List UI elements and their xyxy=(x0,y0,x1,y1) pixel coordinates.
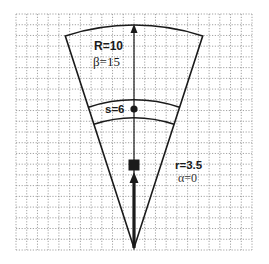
label-s: s=6 xyxy=(105,103,125,115)
thick-arrowhead-icon xyxy=(130,172,139,183)
sector-diagram: R=10 β=15 s=6 r=3.5 α=0 xyxy=(0,0,269,264)
label-beta: β=15 xyxy=(93,54,120,69)
s-dot-marker xyxy=(130,105,137,112)
r-square-marker xyxy=(129,160,140,171)
label-R: R=10 xyxy=(94,39,123,53)
label-alpha: α=0 xyxy=(178,171,197,185)
label-r: r=3.5 xyxy=(175,159,203,171)
